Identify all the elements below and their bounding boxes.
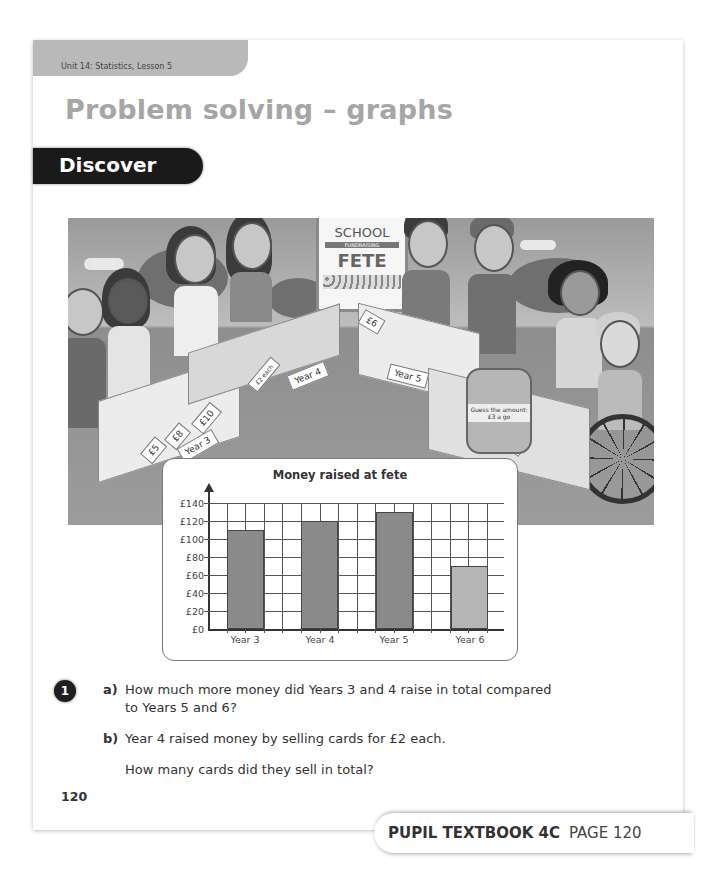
bar-year-5: [376, 512, 413, 629]
page-number: 120: [61, 789, 87, 804]
gridline-vertical: [431, 503, 432, 633]
discover-label: Discover: [59, 153, 156, 177]
gridline-vertical: [357, 503, 358, 633]
gridline-vertical: [282, 503, 283, 633]
sweet-jar: Guess the amount: £3 a go: [466, 368, 532, 454]
y-tick: £60: [186, 570, 204, 581]
unit-tab: Unit 14: Statistics, Lesson 5: [33, 40, 248, 76]
question-number-badge: 1: [54, 680, 76, 702]
x-tick: Year 4: [305, 634, 334, 645]
y-axis: [208, 489, 210, 630]
question-a-line1: How much more money did Years 3 and 4 ra…: [125, 681, 551, 699]
question-b: b): [103, 730, 118, 748]
sign-decoration: [323, 275, 401, 289]
question-a-line2: to Years 5 and 6?: [125, 699, 237, 717]
chart-title: Money raised at fete: [163, 468, 517, 482]
sign-line-fundraising: FUNDRAISING: [325, 242, 399, 248]
cloud-icon: [520, 240, 556, 250]
gridline-horizontal: [204, 521, 504, 522]
textbook-page: Unit 14: Statistics, Lesson 5 Problem so…: [33, 40, 683, 830]
question-b-line2: How many cards did they sell in total?: [125, 761, 374, 779]
gridline-vertical: [338, 503, 339, 633]
y-tick: £0: [192, 624, 204, 635]
y-tick: £140: [180, 498, 204, 509]
x-tick: Year 3: [230, 634, 259, 645]
question-a-label: a): [103, 682, 118, 697]
jar-label: Guess the amount: £3 a go: [468, 404, 530, 422]
y-tick: £100: [180, 534, 204, 545]
bar-year-6: [451, 566, 488, 629]
discover-banner: Discover: [33, 148, 203, 184]
question-b-label: b): [103, 731, 118, 746]
unit-label: Unit 14: Statistics, Lesson 5: [61, 62, 172, 71]
footer-page-label: PAGE 120: [569, 824, 642, 842]
footer-tab: PUPIL TEXTBOOK 4C PAGE 120: [374, 813, 694, 853]
page-title: Problem solving – graphs: [65, 94, 453, 125]
gridline-horizontal: [204, 503, 504, 504]
chart-plot-area: £0 £20 £40 £60 £80 £100 £120 £140 Year 3…: [208, 503, 504, 630]
bar-chart: Money raised at fete £0 £20 £40 £60 £80 …: [162, 458, 518, 661]
y-tick: £120: [180, 516, 204, 527]
x-tick: Year 6: [455, 634, 484, 645]
footer-book-title: PUPIL TEXTBOOK 4C: [388, 824, 560, 842]
y-tick: £80: [186, 552, 204, 563]
x-tick: Year 5: [379, 634, 408, 645]
cloud-icon: [84, 258, 124, 270]
sign-line-fete: FETE: [319, 250, 405, 271]
question-b-line1: Year 4 raised money by selling cards for…: [125, 730, 446, 748]
y-tick: £20: [186, 606, 204, 617]
fete-sign: SCHOOL FUNDRAISING FETE: [316, 218, 408, 312]
bar-year-3: [227, 530, 264, 629]
y-tick: £40: [186, 588, 204, 599]
question-a: a): [103, 681, 118, 699]
sign-line-school: SCHOOL: [319, 225, 405, 240]
bar-year-4: [301, 521, 338, 629]
